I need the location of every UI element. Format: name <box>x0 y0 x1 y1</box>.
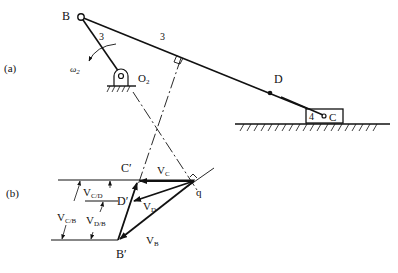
ground-pivot-O2 <box>107 69 136 92</box>
label-B-prime: B′ <box>116 247 127 261</box>
dim-DB-lower <box>91 232 93 239</box>
pin-B <box>78 14 84 20</box>
label-slider-4: 4 <box>309 111 314 122</box>
dim-CB-lower <box>62 225 66 239</box>
point-D <box>268 91 273 96</box>
vector-V-CB <box>118 183 137 240</box>
coupler-end <box>281 97 323 115</box>
label-D-prime: D′ <box>117 194 129 208</box>
right-angle-mark-b <box>190 174 197 178</box>
label-V-CB: VC/B <box>57 211 77 225</box>
label-V-DB: VD/B <box>86 214 106 228</box>
label-V-D: VD <box>143 200 156 214</box>
part-a-label: (a) <box>4 62 17 75</box>
dim-CB-upper <box>74 186 79 201</box>
slider-ground <box>235 124 390 131</box>
dim-DB-upper <box>102 202 103 207</box>
label-link-3-short: 3 <box>99 31 104 42</box>
mechanism-diagram: (a) B 3 3 ω2 O2 D 4 C <box>0 0 398 273</box>
label-V-CD: VC/D <box>83 186 103 200</box>
label-V-B: VB <box>146 234 159 248</box>
label-V-C: VC <box>157 164 170 178</box>
label-C: C <box>329 111 336 123</box>
part-b-label: (b) <box>6 187 19 200</box>
vector-V-B <box>120 181 194 239</box>
vector-V-D <box>134 181 194 201</box>
label-pole-q: q <box>196 186 202 198</box>
label-omega: ω2 <box>70 64 80 76</box>
label-B: B <box>62 9 70 23</box>
label-D: D <box>274 72 283 86</box>
label-link-3-long: 3 <box>160 31 165 42</box>
label-C-prime: C′ <box>121 161 132 175</box>
label-O2: O2 <box>138 72 150 86</box>
omega-arrow-icon <box>89 44 116 61</box>
